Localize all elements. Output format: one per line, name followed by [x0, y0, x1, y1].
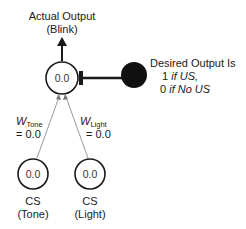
weight-light-value: = 0.0 — [86, 128, 111, 140]
teacher-node — [121, 62, 147, 88]
weight-light-label: WLight — [80, 115, 108, 129]
output-arrowhead-icon — [57, 37, 67, 46]
tone-arrowhead-icon — [56, 94, 61, 100]
input-node-light-value: 0.0 — [83, 168, 98, 180]
weight-tone-label: WTone — [16, 115, 43, 129]
input-light-label-line1: CS — [82, 195, 97, 207]
light-connection — [66, 97, 88, 158]
output-label-line2: (Blink) — [46, 23, 77, 35]
weight-tone-value: = 0.0 — [16, 128, 41, 140]
input-tone-label-line1: CS — [25, 195, 40, 207]
input-tone-label-line2: (Tone) — [17, 208, 48, 220]
network-diagram: Actual Output (Blink) 0.0 Desired Output… — [0, 0, 246, 229]
teacher-line1-text: if US, — [171, 70, 198, 82]
light-arrowhead-icon — [63, 94, 68, 100]
teacher-synapse — [79, 71, 83, 85]
teacher-line1: 1 if US, — [162, 70, 198, 82]
teacher-title: Desired Output Is — [150, 57, 236, 69]
teacher-line1-num: 1 — [162, 70, 168, 82]
input-light-label-line2: (Light) — [74, 208, 105, 220]
teacher-line2: 0 if No US — [160, 83, 211, 95]
output-label-line1: Actual Output — [29, 10, 96, 22]
teacher-line2-text: if No US — [169, 83, 211, 95]
output-node-value: 0.0 — [55, 72, 70, 84]
teacher-line2-num: 0 — [160, 83, 166, 95]
input-node-tone-value: 0.0 — [26, 168, 41, 180]
